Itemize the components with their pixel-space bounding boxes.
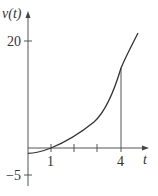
x-axis-label: t <box>143 152 148 167</box>
y-axis-arrow-icon <box>26 11 31 18</box>
y-tick-label-neg5: −5 <box>6 168 21 183</box>
x-axis-arrow-icon <box>142 146 149 151</box>
y-tick-label-20: 20 <box>7 34 21 49</box>
x-tick-label-1: 1 <box>47 154 54 169</box>
x-tick-label-4: 4 <box>117 154 124 169</box>
y-axis-label: v(t) <box>2 6 22 22</box>
chart: v(t) 20 −5 1 4 t <box>0 0 158 196</box>
